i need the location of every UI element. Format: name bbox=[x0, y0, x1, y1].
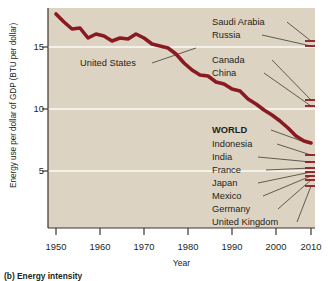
x-tick-1970: 1970 bbox=[124, 241, 164, 252]
y-tick-10: 10 bbox=[18, 103, 44, 114]
y-tick-15: 15 bbox=[18, 41, 44, 52]
series-label-united-kingdom: United Kingdom bbox=[212, 217, 278, 227]
figure-caption: (b) Energy intensity bbox=[4, 271, 82, 281]
series-label-mexico: Mexico bbox=[212, 191, 241, 201]
x-tick-1980: 1980 bbox=[168, 241, 208, 252]
series-label-indonesia: Indonesia bbox=[212, 139, 252, 149]
y-tick-5: 5 bbox=[18, 165, 44, 176]
energy-intensity-chart: Energy use per dollar of GDP (BTU per do… bbox=[0, 0, 328, 281]
x-tick-marks bbox=[56, 228, 311, 235]
series-label-saudi-arabia: Saudi Arabia bbox=[212, 17, 265, 27]
series-label-russia: Russia bbox=[212, 30, 240, 40]
x-tick-1960: 1960 bbox=[80, 241, 120, 252]
x-tick-1990: 1990 bbox=[212, 241, 252, 252]
series-label-united-states: United States bbox=[80, 58, 136, 68]
series-label-france: France bbox=[212, 165, 241, 175]
x-tick-1950: 1950 bbox=[36, 241, 76, 252]
series-label-germany: Germany bbox=[212, 204, 250, 214]
x-axis-title: Year bbox=[48, 258, 315, 268]
series-label-world: WORLD bbox=[212, 125, 247, 135]
series-label-china: China bbox=[212, 68, 236, 78]
series-label-india: India bbox=[212, 152, 232, 162]
y-tick-labels: 15 10 5 bbox=[14, 0, 44, 281]
series-label-japan: Japan bbox=[212, 178, 237, 188]
series-label-canada: Canada bbox=[212, 55, 245, 65]
x-tick-2010: 2010 bbox=[291, 241, 328, 252]
chart-canvas bbox=[0, 0, 328, 281]
x-tick-2000: 2000 bbox=[256, 241, 296, 252]
